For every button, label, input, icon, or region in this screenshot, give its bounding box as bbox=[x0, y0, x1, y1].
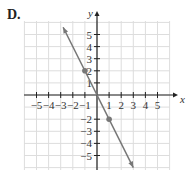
y-tick-label: −4 bbox=[80, 137, 92, 149]
data-point bbox=[82, 68, 88, 74]
coordinate-plane: xy−5−4−3−2−11234554321−2−3−4−5 bbox=[0, 0, 192, 179]
x-tick-label: −4 bbox=[43, 99, 55, 111]
x-tick-label: −2 bbox=[67, 99, 79, 111]
x-tick-label: 2 bbox=[118, 99, 124, 111]
data-point bbox=[106, 116, 112, 122]
y-axis-label: y bbox=[87, 7, 93, 19]
x-tick-label: 5 bbox=[155, 99, 161, 111]
y-axis-arrow-icon bbox=[95, 11, 100, 16]
y-tick-label: 3 bbox=[87, 53, 93, 65]
x-tick-label: 1 bbox=[106, 99, 112, 111]
x-tick-label: −1 bbox=[79, 99, 91, 111]
y-tick-label: 5 bbox=[87, 29, 93, 41]
y-tick-label: −3 bbox=[80, 125, 92, 137]
x-axis-arrow-icon bbox=[173, 93, 178, 98]
y-tick-label: 4 bbox=[87, 41, 93, 53]
x-tick-label: −5 bbox=[31, 99, 43, 111]
x-tick-label: 3 bbox=[131, 99, 137, 111]
x-tick-label: 4 bbox=[143, 99, 149, 111]
x-tick-label: −3 bbox=[55, 99, 67, 111]
x-axis-label: x bbox=[179, 93, 185, 105]
y-tick-label: −2 bbox=[80, 113, 92, 125]
graph-line bbox=[63, 27, 133, 167]
y-tick-label: −5 bbox=[80, 150, 92, 162]
